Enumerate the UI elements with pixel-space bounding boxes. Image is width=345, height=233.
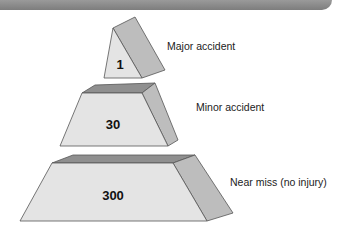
tier-top-label: Major accident — [167, 40, 235, 52]
tier-bottom-block — [20, 155, 233, 221]
tier-middle-block — [60, 83, 178, 146]
tier-bottom-top-face — [52, 155, 195, 163]
tier-bottom-label: Near miss (no injury) — [230, 176, 327, 188]
tier-bottom-value: 300 — [102, 188, 124, 203]
tier-middle-value: 30 — [106, 117, 120, 132]
tier-top-block — [104, 17, 165, 78]
tier-top-value: 1 — [116, 57, 123, 72]
accident-pyramid-diagram — [0, 0, 345, 233]
tier-middle-label: Minor accident — [196, 101, 264, 113]
